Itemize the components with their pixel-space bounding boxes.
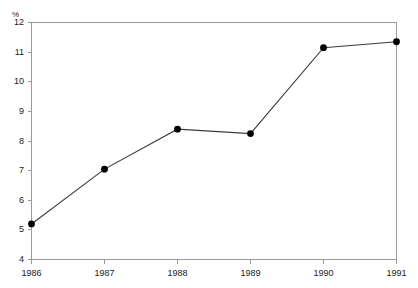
y-tick-label: 11 — [2, 48, 24, 57]
x-tick-label: 1986 — [7, 268, 57, 278]
y-tick-label: 5 — [2, 225, 24, 234]
data-point-marker: 1988: 8.4 — [174, 126, 181, 133]
series-line — [32, 42, 397, 224]
x-tick-label: 1990 — [299, 268, 349, 278]
x-tick-label: 1989 — [226, 268, 276, 278]
data-point-marker: 1991: 11.35 — [393, 38, 400, 45]
y-tick-label: 4 — [2, 255, 24, 264]
y-tick-label: 7 — [2, 166, 24, 175]
data-line — [32, 42, 397, 224]
x-tick-label: 1991 — [372, 268, 418, 278]
data-point-marker: 1986: 5.2 — [28, 221, 35, 228]
plot-frame — [32, 23, 397, 260]
y-tick-label: 12 — [2, 18, 24, 27]
x-axis-ticks — [32, 260, 397, 264]
data-point-marker: 1989: 8.25 — [247, 130, 254, 137]
x-tick-label: 1988 — [153, 268, 203, 278]
line-chart: % 1986: 5.21987: 7.051988: 8.41989: 8.25… — [0, 0, 418, 288]
data-markers: 1986: 5.21987: 7.051988: 8.41989: 8.2519… — [28, 38, 400, 227]
y-tick-label: 8 — [2, 137, 24, 146]
x-tick-label: 1987 — [80, 268, 130, 278]
data-point-marker: 1990: 11.15 — [320, 44, 327, 51]
plot-canvas: 1986: 5.21987: 7.051988: 8.41989: 8.2519… — [0, 0, 418, 288]
y-tick-label: 6 — [2, 196, 24, 205]
y-tick-label: 10 — [2, 77, 24, 86]
data-point-marker: 1987: 7.05 — [101, 166, 108, 173]
y-tick-label: 9 — [2, 107, 24, 116]
